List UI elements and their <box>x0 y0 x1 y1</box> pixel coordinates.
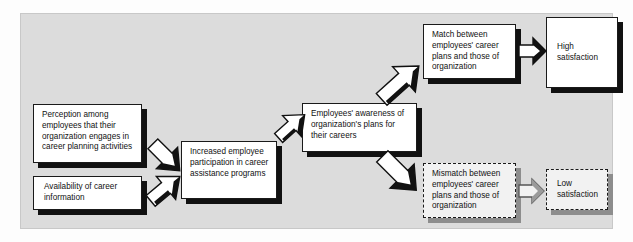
low-satisfaction-box[interactable]: Low satisfaction <box>546 169 608 210</box>
match-box-label: Match between employees' career plans an… <box>424 25 515 77</box>
high-satisfaction-box-label: High satisfaction <box>547 18 617 87</box>
arrow-match-to-high-satisfaction <box>518 35 548 67</box>
arrow-availability-to-participation <box>144 166 188 208</box>
arrow-awareness-to-mismatch <box>373 148 427 200</box>
high-satisfaction-box[interactable]: High satisfaction <box>546 17 618 88</box>
diagram-canvas: Perception among employees that their or… <box>0 0 633 242</box>
arrow-awareness-to-match <box>373 53 429 111</box>
perception-box[interactable]: Perception among employees that their or… <box>33 104 142 163</box>
match-box[interactable]: Match between employees' career plans an… <box>423 24 516 79</box>
mismatch-box-label: Mismatch between employees' career plans… <box>424 164 515 216</box>
perception-box-label: Perception among employees that their or… <box>34 105 141 157</box>
low-satisfaction-box-label: Low satisfaction <box>547 170 607 209</box>
arrow-mismatch-to-low-satisfaction <box>518 176 546 206</box>
arrow-participation-to-awareness <box>272 105 312 147</box>
availability-box-label: Availability of career information <box>34 177 141 209</box>
availability-box[interactable]: Availability of career information <box>33 176 142 210</box>
participation-box[interactable]: Increased employee participation in care… <box>181 141 277 199</box>
mismatch-box[interactable]: Mismatch between employees' career plans… <box>423 163 516 218</box>
participation-box-label: Increased employee participation in care… <box>182 142 276 183</box>
